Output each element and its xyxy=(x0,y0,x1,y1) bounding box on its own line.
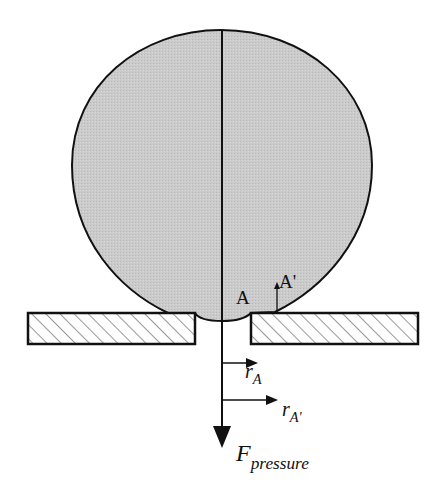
droplet-diagram xyxy=(0,0,447,486)
left-plate xyxy=(28,313,195,344)
label-r-a-prime: rA' xyxy=(282,398,302,426)
label-point-a: A xyxy=(236,287,250,309)
label-point-a-prime: A' xyxy=(279,271,296,293)
label-force-pressure: Fpressure xyxy=(236,440,309,474)
right-plate xyxy=(251,313,418,344)
r-a-prime-arrow-head-icon xyxy=(266,395,278,405)
label-r-a: rA xyxy=(245,360,262,388)
force-arrow-head-icon xyxy=(213,426,231,448)
